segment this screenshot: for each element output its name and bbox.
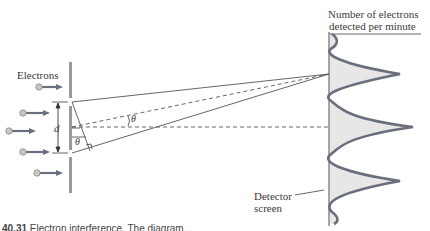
electron-5 (34, 170, 63, 176)
detector-label-line2: screen (254, 202, 282, 214)
angle-label-lower: θ (75, 136, 80, 148)
graph-title-line2: detected per minute (329, 20, 416, 32)
angle-label-upper: θ (131, 113, 136, 125)
electrons-label: Electrons (17, 69, 59, 81)
caption-text: Electron interference. The diagram... (30, 223, 192, 231)
electron-2 (20, 110, 50, 116)
graph-title-line1: Number of electrons (328, 8, 418, 20)
slit-separation-label: d (54, 122, 60, 134)
electron-1 (36, 84, 63, 90)
figure-caption: 40.31 Electron interference. The diagram… (2, 223, 192, 231)
figure-number: 40.31 (2, 223, 27, 231)
electron-4 (20, 149, 50, 155)
double-slit-diagram (0, 0, 430, 231)
electron-3 (6, 128, 36, 134)
detector-label-line1: Detector (254, 190, 292, 202)
ray-lines (52, 74, 329, 195)
slit-barrier (69, 62, 72, 193)
